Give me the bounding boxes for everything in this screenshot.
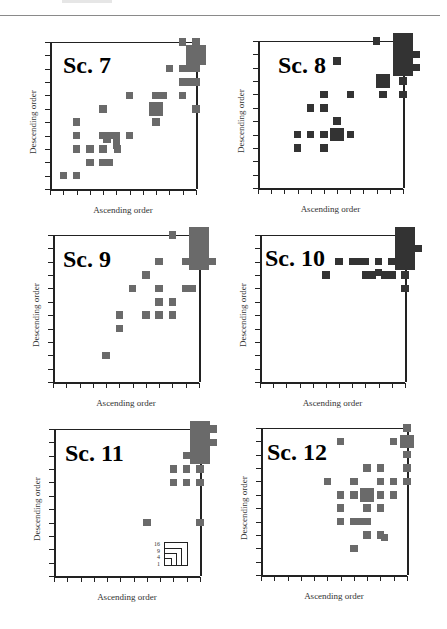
y-tick [45,69,50,70]
y-tick [48,235,53,236]
x-tick [147,577,148,582]
y-axis-label: Descending order [32,477,42,541]
x-tick [350,189,351,194]
y-tick [49,429,54,430]
x-tick [67,577,68,582]
legend-size-label: 4 [150,554,160,560]
y-axis-label: Descending order [28,90,38,154]
y-tick [49,549,54,550]
y-tick [45,176,50,177]
header-rule [0,15,440,16]
y-tick [49,496,54,497]
data-marker [159,92,167,100]
data-marker [350,545,358,553]
data-marker [166,65,174,73]
y-tick [255,275,260,276]
x-tick [352,383,353,388]
y-tick [49,482,54,483]
plot-frame-top [50,42,196,43]
x-tick [160,577,161,582]
x-tick [120,577,121,582]
x-tick [363,189,364,194]
data-marker [414,245,422,253]
x-tick [326,383,327,388]
data-marker [142,311,150,319]
data-marker [377,478,385,486]
data-marker [337,504,345,512]
data-marker [169,298,177,306]
data-marker [347,131,355,139]
x-tick [187,577,188,582]
data-marker [401,285,409,293]
y-tick [45,122,50,123]
data-marker [363,504,371,512]
data-marker [320,91,328,99]
y-tick [45,95,50,96]
x-tick [159,383,160,388]
data-marker [192,105,200,113]
legend-size-label: 1 [150,561,160,567]
y-tick [48,329,53,330]
x-tick [311,189,312,194]
y-tick [256,508,261,509]
y-tick [255,315,260,316]
data-marker [60,172,68,180]
x-tick [53,383,54,388]
data-marker [186,45,206,65]
panel-title: Sc. 12 [267,440,327,464]
data-marker [395,227,415,270]
y-tick [253,148,258,149]
panel-sc7: Sc. 7Ascending orderDescending order [0,25,215,220]
y-tick [45,42,50,43]
x-tick [134,577,135,582]
x-tick [274,576,275,581]
data-marker [390,491,398,499]
data-marker [189,227,209,270]
data-marker [170,465,178,473]
x-tick [90,190,91,195]
x-tick [156,190,157,195]
data-marker [143,519,151,527]
data-marker [379,91,387,99]
x-tick [260,383,261,388]
x-axis-label: Ascending order [50,205,196,215]
data-marker [337,491,345,499]
data-marker [99,145,107,153]
data-marker [377,464,385,472]
y-axis [258,41,260,188]
y-tick [255,248,260,249]
data-marker [320,144,328,152]
x-tick [146,383,147,388]
data-marker [377,491,385,499]
legend-size-box [164,558,172,566]
y-axis [261,428,263,575]
x-tick [407,576,408,581]
x-tick [186,383,187,388]
data-marker [376,74,390,88]
data-marker [390,438,398,446]
panel-sc11: Sc. 11Ascending orderDescending order169… [0,413,215,608]
plot-frame-top [258,41,403,42]
y-tick [48,302,53,303]
data-marker [412,64,420,72]
x-tick [93,383,94,388]
plot-frame-top [260,235,405,236]
data-marker [307,104,315,112]
x-tick [81,577,82,582]
data-marker [102,352,110,360]
y-tick [49,576,54,577]
data-marker [400,435,414,449]
y-tick [253,81,258,82]
data-marker [155,298,163,306]
y-tick [48,369,53,370]
x-tick [354,576,355,581]
legend-size-label: 9 [150,548,160,554]
data-marker [337,438,345,446]
y-tick [49,456,54,457]
x-tick [54,577,55,582]
y-axis-label: Descending order [31,283,41,347]
data-marker [116,311,124,319]
y-tick [256,495,261,496]
y-tick [256,481,261,482]
x-tick [119,383,120,388]
